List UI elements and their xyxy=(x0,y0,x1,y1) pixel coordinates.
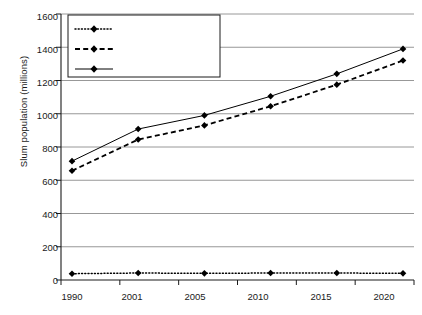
data-point-marker xyxy=(201,112,208,119)
data-point-marker xyxy=(334,81,341,88)
data-point-marker xyxy=(135,270,142,277)
data-point-marker xyxy=(135,126,142,133)
data-point-marker xyxy=(201,270,208,277)
data-point-marker xyxy=(201,122,208,129)
x-axis-ticks xyxy=(61,280,414,285)
data-point-marker xyxy=(135,136,142,143)
data-point-marker xyxy=(334,270,341,277)
data-point-marker xyxy=(334,71,341,78)
data-point-marker xyxy=(69,158,76,165)
data-point-marker xyxy=(69,167,76,174)
data-point-marker xyxy=(267,93,274,100)
data-point-marker xyxy=(400,46,407,53)
data-point-marker xyxy=(69,270,76,277)
legend-box xyxy=(68,15,220,77)
plot-area xyxy=(0,0,422,315)
data-point-marker xyxy=(400,270,407,277)
series-developed-regions xyxy=(69,270,407,277)
data-point-marker xyxy=(267,103,274,110)
y-axis-ticks xyxy=(56,14,61,280)
data-point-marker xyxy=(267,270,274,277)
series-line xyxy=(72,273,403,274)
data-point-marker xyxy=(400,57,407,64)
chart-figure: Slum population (millions) 0 200 400 600… xyxy=(0,0,422,315)
